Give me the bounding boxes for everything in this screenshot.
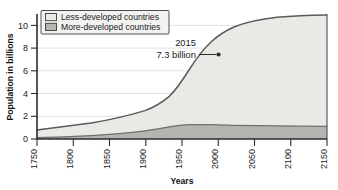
x-ticks: 1750 1800 1850 1900 1950 2000 2050 2100 … xyxy=(29,139,329,169)
xtick-label-1950: 1950 xyxy=(174,149,184,169)
legend-label-less-developed: Less-developed countries xyxy=(61,12,159,22)
ytick-label-8: 8 xyxy=(23,43,28,53)
chart-legend: Less-developed countries More-developed … xyxy=(41,11,169,35)
population-growth-chart: 0 2 4 6 8 10 1750 1800 1850 1900 1950 20… xyxy=(0,0,338,190)
y-axis-title: Population in billions xyxy=(5,33,15,120)
ytick-label-10: 10 xyxy=(18,21,28,31)
y-ticks: 0 2 4 6 8 10 xyxy=(18,21,37,145)
ytick-label-2: 2 xyxy=(23,111,28,121)
ytick-label-6: 6 xyxy=(23,66,28,76)
ytick-label-0: 0 xyxy=(23,134,28,144)
chart-canvas: 0 2 4 6 8 10 1750 1800 1850 1900 1950 20… xyxy=(0,0,338,190)
annotation-year: 2015 xyxy=(175,37,196,48)
legend-label-more-developed: More-developed countries xyxy=(61,22,160,32)
xtick-label-2000: 2000 xyxy=(210,149,220,169)
xtick-label-1750: 1750 xyxy=(29,149,39,169)
xtick-label-1850: 1850 xyxy=(102,149,112,169)
xtick-label-2100: 2100 xyxy=(283,149,293,169)
legend-swatch-more-developed xyxy=(46,23,57,30)
xtick-label-1800: 1800 xyxy=(65,149,75,169)
xtick-label-2150: 2150 xyxy=(319,149,329,169)
xtick-label-2050: 2050 xyxy=(247,149,257,169)
annotation-marker-dot xyxy=(216,52,220,56)
x-axis-title: Years xyxy=(171,176,194,186)
legend-swatch-less-developed xyxy=(46,14,57,21)
xtick-label-1900: 1900 xyxy=(138,149,148,169)
ytick-label-4: 4 xyxy=(23,89,28,99)
annotation-value: 7.3 billion xyxy=(156,49,196,60)
